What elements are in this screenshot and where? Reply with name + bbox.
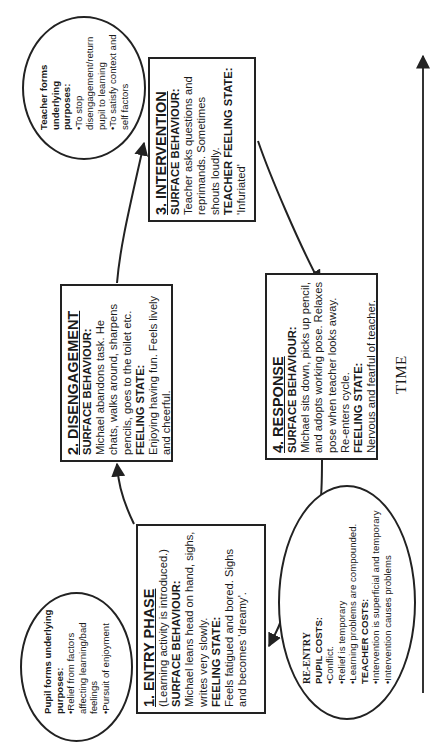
disengagement-box: 2. DISENGAGEMENT SURFACE BEHAVIOUR: Mich…	[60, 284, 173, 462]
reentry-title: RE-ENTRY	[301, 505, 313, 684]
entry-phase-box: 1. ENTRY PHASE (Learning activity is int…	[136, 524, 266, 714]
reentry-costs-ellipse: RE-ENTRY PUPIL COSTS: •Conflict. •Relief…	[278, 485, 416, 720]
arrow-entry-to-disengagement	[117, 464, 134, 524]
pupil-cost-item: •Learning problems are compounded.	[347, 505, 359, 684]
entry-phase-subtitle: (Learning activity is introduced.)	[157, 531, 170, 707]
disengagement-surface-text: Michael abandons task. He chats, walks a…	[94, 291, 134, 455]
teacher-purpose-item: •To satisfy context and self factors	[107, 32, 130, 130]
entry-feeling-text: Feels fatigued and bored. Sighs and beco…	[223, 531, 249, 707]
response-surface-label: SURFACE BEHAVIOUR:	[286, 280, 299, 453]
entry-feeling-label: FEELING STATE:	[210, 531, 223, 707]
response-feeling-label: FEELING STATE:	[352, 280, 365, 453]
entry-surface-text: Michael leans head on hand, sighs, write…	[183, 531, 209, 707]
diagram-canvas: 1. ENTRY PHASE (Learning activity is int…	[0, 0, 441, 746]
intervention-feeling-text: 'Infuriated'	[235, 64, 248, 215]
response-feeling-text: Nervous and fearful of teacher.	[365, 280, 378, 453]
teacher-cost-item: •Intervention causes problems	[382, 505, 394, 684]
pupil-cost-item: •Conflict.	[324, 505, 336, 684]
pupil-purpose-item: •Pursuit of enjoyment	[100, 608, 112, 714]
teacher-purpose-item: •To stop disengagement/return pupil to l…	[73, 32, 108, 130]
response-surface-text: Michael sits down, picks up pencil, and …	[299, 280, 352, 453]
arrow-disengagement-to-intervention	[117, 143, 144, 283]
time-axis-label: TIME	[393, 355, 410, 394]
disengagement-surface-label: SURFACE BEHAVIOUR:	[81, 291, 94, 455]
teacher-purposes-ellipse: Teacher forms underlying purposes: •To s…	[22, 16, 146, 160]
teacher-costs-label: TEACHER COSTS:	[359, 505, 371, 684]
arrow-intervention-to-response	[258, 141, 320, 283]
teacher-purposes-heading: Teacher forms underlying purposes:	[38, 32, 73, 130]
teacher-cost-item: •Intervention is superficial and tempora…	[370, 505, 382, 684]
pupil-purpose-item: •Relief from factors affecting learning/…	[65, 608, 100, 714]
response-box: 4. RESPONSE SURFACE BEHAVIOUR: Michael s…	[265, 273, 378, 460]
entry-surface-label: SURFACE BEHAVIOUR:	[170, 531, 183, 707]
response-title: 4. RESPONSE	[270, 280, 286, 453]
intervention-surface-text: Teacher asks questions and reprimands. S…	[182, 64, 222, 215]
intervention-title: 3. INTERVENTION	[153, 64, 169, 215]
pupil-cost-item: •Relief is temporary	[336, 505, 348, 684]
intervention-box: 3. INTERVENTION SURFACE BEHAVIOUR: Teach…	[148, 57, 256, 222]
pupil-costs-label: PUPIL COSTS:	[313, 505, 325, 684]
pupil-purposes-heading: Pupil forms underlying purposes:	[42, 608, 65, 714]
disengagement-title: 2. DISENGAGEMENT	[65, 291, 81, 455]
intervention-feeling-label: TEACHER FEELING STATE:	[222, 64, 235, 215]
disengagement-feeling-text: Enjoying having fun. Feels lively and ch…	[147, 291, 173, 455]
entry-phase-title: 1. ENTRY PHASE	[141, 531, 157, 707]
intervention-surface-label: SURFACE BEHAVIOUR:	[169, 64, 182, 215]
disengagement-feeling-label: FEELING STATE:	[134, 291, 147, 455]
pupil-purposes-ellipse: Pupil forms underlying purposes: •Relief…	[20, 592, 133, 742]
